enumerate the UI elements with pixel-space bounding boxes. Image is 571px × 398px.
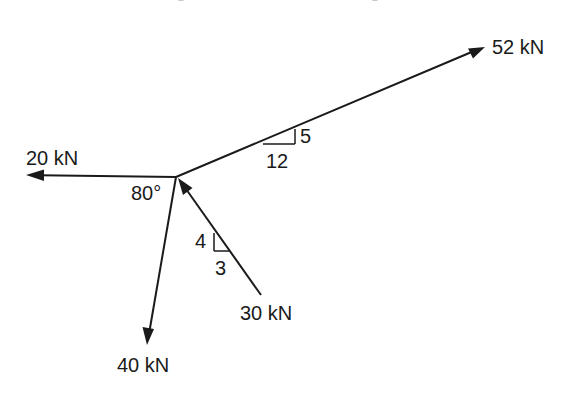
slope-rise-label: 4 <box>195 230 206 252</box>
arrowhead-icon <box>178 178 193 195</box>
force-20kn: 20 kN <box>26 147 176 181</box>
force-40kn-label: 40 kN <box>117 354 169 376</box>
slope-triangle-4-3: 4 3 <box>195 230 229 279</box>
slope-triangle-5-12: 5 12 <box>263 125 311 172</box>
force-30kn-label: 30 kN <box>240 302 292 324</box>
angle-label: 80° <box>131 182 161 204</box>
force-52kn-label: 52 kN <box>492 36 544 58</box>
arrowhead-icon <box>26 170 44 182</box>
force-20kn-label: 20 kN <box>26 147 78 169</box>
force-40kn: 40 kN <box>117 177 176 376</box>
arrowhead-icon <box>143 327 155 345</box>
force-20kn-line <box>40 175 176 177</box>
force-52kn: 52 kN <box>176 36 544 177</box>
force-diagram: 52 kN 5 12 20 kN 80° 40 kN 30 kN 4 3 <box>0 0 571 398</box>
force-52kn-line <box>176 51 474 177</box>
slope-run-label: 12 <box>266 150 288 172</box>
slope-rise-label: 5 <box>300 125 311 147</box>
slope-run-label: 3 <box>215 257 226 279</box>
arrowhead-icon <box>468 47 485 59</box>
